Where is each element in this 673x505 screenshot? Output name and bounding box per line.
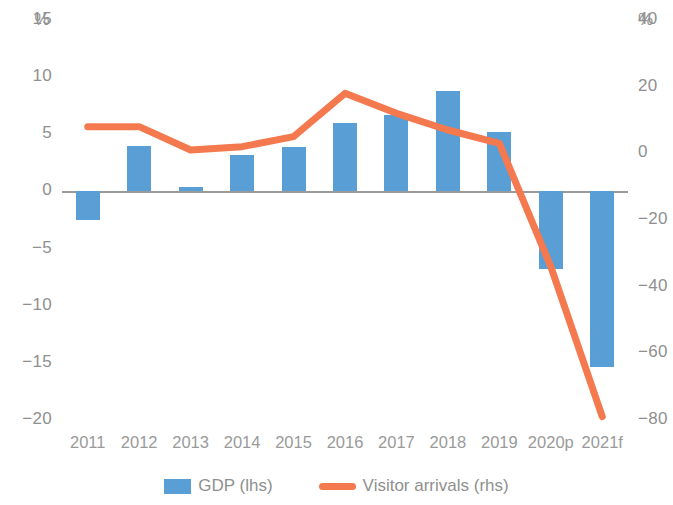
y-tick-left: −15 xyxy=(8,352,52,372)
legend-item-gdp: GDP (lhs) xyxy=(164,476,272,496)
y-tick-right: −60 xyxy=(638,342,673,362)
y-tick-left: −10 xyxy=(8,295,52,315)
y-tick-right: −20 xyxy=(638,209,673,229)
legend-item-visitor-arrivals: Visitor arrivals (rhs) xyxy=(319,476,509,496)
line-series-visitor-arrivals xyxy=(62,20,628,420)
y-tick-left: 5 xyxy=(8,123,52,143)
y-tick-left: −5 xyxy=(8,238,52,258)
plot-area xyxy=(62,20,628,420)
visitor-arrivals-line xyxy=(88,93,603,416)
legend-label-gdp: GDP (lhs) xyxy=(198,476,272,496)
y-tick-left: 0 xyxy=(8,180,52,200)
chart-legend: GDP (lhs) Visitor arrivals (rhs) xyxy=(0,476,673,496)
y-tick-right: 20 xyxy=(638,76,673,96)
line-swatch-icon xyxy=(319,483,356,490)
y-tick-right: −40 xyxy=(638,276,673,296)
chart-container: % % 151050−5−10−15−20 40200−20−40−60−80 … xyxy=(0,0,673,505)
y-tick-right: 0 xyxy=(638,142,673,162)
y-tick-left: 15 xyxy=(8,9,52,29)
y-tick-right: −80 xyxy=(638,409,673,429)
y-tick-right: 40 xyxy=(638,9,673,29)
legend-label-visitor-arrivals: Visitor arrivals (rhs) xyxy=(363,476,509,496)
y-tick-left: 10 xyxy=(8,66,52,86)
y-tick-left: −20 xyxy=(8,409,52,429)
bar-swatch-icon xyxy=(164,479,191,494)
x-tick-2021f: 2021f xyxy=(567,433,637,452)
